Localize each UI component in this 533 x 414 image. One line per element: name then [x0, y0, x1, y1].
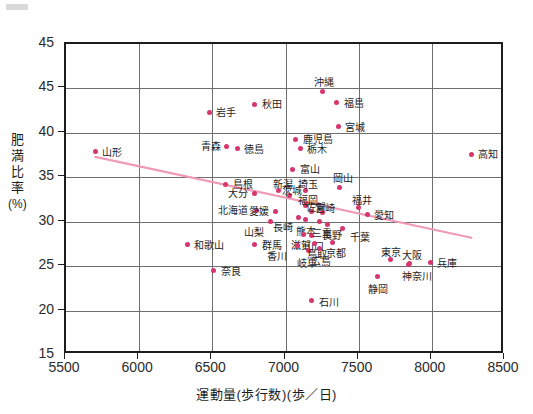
data-point — [336, 124, 341, 129]
data-point — [207, 110, 212, 115]
data-point — [301, 232, 306, 237]
data-point-label: 岡山 — [333, 174, 353, 184]
y-tick-label: 45 — [0, 79, 54, 93]
scatter-chart-figure: 肥 満 比 率 (%) 運動量(歩行数)(歩／日) 55006000650070… — [0, 0, 533, 414]
plot-area: 山形和歌山奈良岩手青森徳島島根大分北海道秋田山梨群馬新潟愛媛茨城鹿児島栃木富山埼… — [64, 42, 503, 353]
y-axis-title-char: 満 — [8, 148, 26, 164]
data-point-label: 山梨 — [244, 228, 264, 238]
data-point-label: 大阪 — [402, 251, 422, 261]
data-point-label: 兵庫 — [437, 259, 457, 269]
y-tick-label: 20 — [0, 302, 54, 316]
data-point — [320, 89, 325, 94]
x-tick-label: 5500 — [29, 360, 99, 374]
data-point-label: 山形 — [102, 148, 122, 158]
y-tick-label: 40 — [0, 124, 54, 138]
data-point-label: 栃木 — [307, 145, 327, 155]
data-point-label: 秋田 — [262, 100, 282, 110]
data-point-label: 千葉 — [350, 233, 370, 243]
data-point-label: 長崎 — [273, 223, 293, 233]
data-point — [273, 209, 278, 214]
x-tick-label: 6000 — [102, 360, 172, 374]
y-tick-label: 30 — [0, 213, 54, 227]
data-point-label: 京都 — [326, 249, 346, 259]
x-tick-label: 7500 — [322, 360, 392, 374]
data-point — [293, 137, 298, 142]
y-tick-label: 35 — [0, 168, 54, 182]
data-point — [317, 246, 322, 251]
data-point-label: 奈良 — [221, 267, 241, 277]
x-tick-label: 6500 — [175, 360, 245, 374]
data-point-label: 石川 — [319, 298, 339, 308]
data-point-label: 神奈川 — [402, 272, 432, 282]
data-point-label: 大分 — [228, 189, 248, 199]
corner-artifact — [6, 4, 28, 10]
data-point-label: 徳島 — [244, 145, 264, 155]
data-point-label: 福島 — [344, 99, 364, 109]
y-axis-title-char: 率 — [8, 180, 26, 196]
data-point-label: 北海道 — [218, 206, 248, 216]
y-tick-label: 45 — [0, 35, 54, 49]
data-point-label: 愛媛 — [249, 207, 269, 217]
data-point — [93, 149, 98, 154]
data-point-label: 福井 — [352, 196, 372, 206]
data-point-label: 愛知 — [374, 211, 394, 221]
y-tick-label: 25 — [0, 257, 54, 271]
data-point — [365, 212, 370, 217]
x-tick-label: 7000 — [249, 360, 319, 374]
data-point-label: 沖縄 — [314, 78, 334, 88]
trend-line — [66, 44, 505, 355]
data-point-label: 群馬 — [262, 241, 282, 251]
data-point — [337, 185, 342, 190]
data-point-label: 東京 — [381, 248, 401, 258]
data-point — [296, 215, 301, 220]
x-tick-label: 8000 — [395, 360, 465, 374]
data-point-label: 香川 — [267, 252, 287, 262]
data-point-label: 高知 — [478, 150, 498, 160]
data-point — [295, 243, 300, 248]
data-point — [223, 182, 228, 187]
data-point-label: 岩手 — [216, 108, 236, 118]
data-point — [469, 152, 474, 157]
data-point-label: 埼玉 — [298, 180, 318, 190]
data-point-label: 静岡 — [368, 285, 388, 295]
data-point-label: 宮城 — [345, 123, 365, 133]
x-tick-label: 8500 — [468, 360, 533, 374]
y-tick-label: 15 — [0, 346, 54, 360]
data-point — [330, 240, 335, 245]
data-point — [317, 219, 322, 224]
data-point-label: 富山 — [300, 165, 320, 175]
data-point-label: 青森 — [201, 142, 221, 152]
data-point-label: 和歌山 — [194, 241, 224, 251]
data-point — [428, 260, 433, 265]
data-point-label: 宮崎 — [315, 204, 335, 214]
y-axis-title-unit: (%) — [8, 196, 26, 212]
data-point — [406, 262, 411, 267]
x-axis-title: 運動量(歩行数)(歩／日) — [0, 384, 533, 403]
